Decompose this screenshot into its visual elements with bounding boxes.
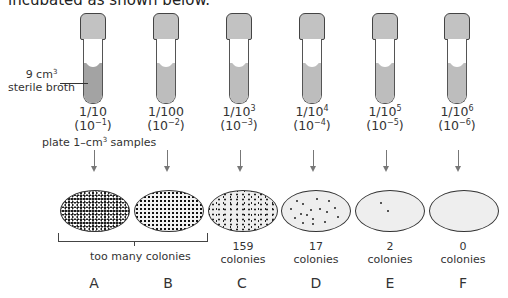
plate-instruction-post: samples [107,136,156,149]
dilution-fraction: 1/10 [368,104,396,119]
tube-cap [226,13,252,40]
tube-glass [156,39,176,104]
colony-count-value: 159 [208,240,278,253]
dilution-fraction: 1/10 [295,104,323,119]
broth-volume-exponent: 3 [53,68,57,76]
bracket-line [58,233,208,242]
tube-cap [153,13,179,40]
leader-line [60,83,88,84]
dilution-fraction-exponent: 5 [396,104,401,113]
dilution-power-exponent: −4 [314,118,326,127]
colony-count-value: 2 [355,240,425,253]
dilution-power: (10 [438,118,459,133]
dilution-label-6: 1/106 (10−6) [427,105,487,133]
dilution-power-exponent: −6 [459,118,471,127]
plate-letter-c: C [227,275,257,291]
down-arrow-icon [458,150,460,172]
dilution-power-close: ) [399,118,404,133]
broth-volume: 9 cm [26,68,53,81]
dilution-power-close: ) [107,118,112,133]
down-arrow-icon [94,150,96,172]
tube-glass [375,39,395,104]
dilution-power-exponent: −3 [241,118,253,127]
petri-dish-a [60,190,130,232]
petri-dish-e [355,190,425,232]
dilution-fraction: 1/10 [222,104,250,119]
dilution-fraction-exponent: 4 [323,104,328,113]
too-many-colonies-label: too many colonies [90,250,191,263]
colony-count-d: 17 colonies [281,240,351,266]
dilution-label-4: 1/104 (10−4) [282,105,342,133]
plate-letter-b: B [153,275,183,291]
test-tube-3 [224,13,254,103]
tube-cap [372,13,398,40]
broth-label: 9 cm3 sterile broth [8,68,75,94]
tube-glass [447,39,467,104]
tube-glass [229,39,249,104]
dilution-power-close: ) [326,118,331,133]
test-tube-1 [78,13,108,103]
colony-count-value: 17 [281,240,351,253]
petri-dish-d [281,190,351,232]
tube-cap [444,13,470,40]
down-arrow-icon [240,150,242,172]
dilution-fraction: 1/10 [440,104,468,119]
down-arrow-icon [167,150,169,172]
dilution-label-5: 1/105 (10−5) [355,105,415,133]
test-tube-2 [151,13,181,103]
plate-letter-a: A [79,275,109,291]
dilution-label-3: 1/103 (10−3) [209,105,269,133]
plate-letter-e: E [375,275,405,291]
colony-count-value: 0 [428,240,498,253]
dilution-power-close: ) [253,118,258,133]
dilution-power: (10 [366,118,387,133]
colony-count-unit: colonies [355,253,425,266]
plate-instruction: plate 1–cm3 samples [42,136,156,149]
test-tube-5 [370,13,400,103]
dilution-power: (10 [147,118,168,133]
tube-glass [83,39,103,104]
dilution-label-2: 1/100 (10−2) [136,105,196,133]
tube-broth [448,63,466,103]
dilution-fraction: 1/100 [148,104,184,119]
dilution-power: (10 [220,118,241,133]
dilution-fraction: 1/10 [79,104,107,119]
colony-count-unit: colonies [428,253,498,266]
dilution-power-exponent: −1 [95,118,107,127]
tube-broth [157,63,175,103]
dilution-power: (10 [293,118,314,133]
dilution-power-close: ) [180,118,185,133]
tube-broth [230,63,248,103]
tube-cap [299,13,325,40]
colony-count-unit: colonies [281,253,351,266]
intro-text: incubated as shown below. [8,0,210,9]
tube-broth [303,63,321,103]
bracket-tick [134,241,135,246]
petri-dish-c [208,190,278,232]
down-arrow-icon [313,150,315,172]
dilution-power-close: ) [471,118,476,133]
plate-instruction-pre: plate 1–cm [42,136,103,149]
petri-dish-f [429,190,499,232]
colony-count-unit: colonies [208,253,278,266]
dilution-power: (10 [74,118,95,133]
test-tube-6 [442,13,472,103]
tube-cap [80,13,106,40]
dilution-label-1: 1/10 (10−1) [63,105,123,133]
colony-count-c: 159 colonies [208,240,278,266]
colony-count-f: 0 colonies [428,240,498,266]
tube-glass [302,39,322,104]
plate-letter-f: F [448,275,478,291]
tube-broth [376,63,394,103]
colony-count-e: 2 colonies [355,240,425,266]
down-arrow-icon [386,150,388,172]
dilution-fraction-exponent: 3 [250,104,255,113]
dilution-power-exponent: −5 [387,118,399,127]
dilution-fraction-exponent: 6 [468,104,473,113]
dilution-power-exponent: −2 [168,118,180,127]
plate-letter-d: D [301,275,331,291]
test-tube-4 [297,13,327,103]
petri-dish-b [134,190,204,232]
